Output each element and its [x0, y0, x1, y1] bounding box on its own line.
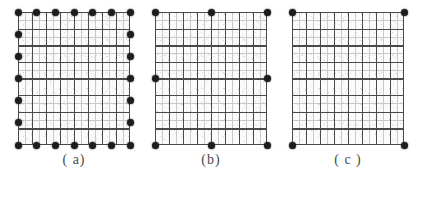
boundary-node — [127, 119, 134, 126]
boundary-node — [289, 9, 296, 16]
boundary-node — [71, 9, 78, 16]
boundary-node — [208, 142, 215, 149]
major-gridlines-c — [292, 12, 404, 145]
boundary-node — [127, 31, 134, 38]
boundary-node — [15, 53, 22, 60]
boundary-node — [15, 31, 22, 38]
boundary-node — [264, 142, 271, 149]
boundary-node — [108, 142, 115, 149]
boundary-node — [127, 9, 134, 16]
mesh-comparison-figure: ( a)(b)( c ) — [0, 0, 426, 200]
boundary-node — [52, 142, 59, 149]
major-gridlines-b — [155, 12, 267, 145]
boundary-node — [152, 75, 159, 82]
boundary-node — [264, 75, 271, 82]
boundary-node — [52, 9, 59, 16]
boundary-node — [289, 142, 296, 149]
boundary-node — [15, 119, 22, 126]
boundary-node — [152, 9, 159, 16]
boundary-node — [15, 9, 22, 16]
boundary-node — [127, 97, 134, 104]
boundary-node — [89, 142, 96, 149]
boundary-node — [71, 142, 78, 149]
mesh-grid-a — [18, 12, 130, 145]
boundary-node — [15, 97, 22, 104]
boundary-node — [127, 142, 134, 149]
boundary-node — [264, 9, 271, 16]
boundary-node — [89, 9, 96, 16]
panel-caption-c: ( c ) — [292, 152, 404, 168]
mesh-grid-b — [155, 12, 267, 145]
major-gridlines-a — [18, 12, 130, 145]
boundary-node — [208, 9, 215, 16]
boundary-node — [152, 142, 159, 149]
panel-c — [292, 12, 404, 145]
panel-b — [155, 12, 267, 145]
boundary-node — [127, 75, 134, 82]
boundary-node — [15, 142, 22, 149]
mesh-grid-c — [292, 12, 404, 145]
minor-gridlines-a — [18, 12, 130, 145]
scan-speckle-texture-c — [292, 12, 404, 145]
scan-speckle-texture-a — [18, 12, 130, 145]
boundary-node — [15, 75, 22, 82]
boundary-node — [401, 9, 408, 16]
mesh-border-b — [155, 12, 267, 145]
scan-speckle-texture-b — [155, 12, 267, 145]
minor-gridlines-c — [292, 12, 404, 145]
panel-caption-a: ( a) — [18, 152, 130, 168]
minor-gridlines-b — [155, 12, 267, 145]
boundary-node — [401, 142, 408, 149]
boundary-node — [33, 9, 40, 16]
boundary-node — [127, 53, 134, 60]
mesh-border-a — [18, 12, 130, 145]
mesh-border-c — [292, 12, 404, 145]
panel-a — [18, 12, 130, 145]
boundary-node — [108, 9, 115, 16]
panel-caption-b: (b) — [155, 152, 267, 168]
boundary-node — [33, 142, 40, 149]
